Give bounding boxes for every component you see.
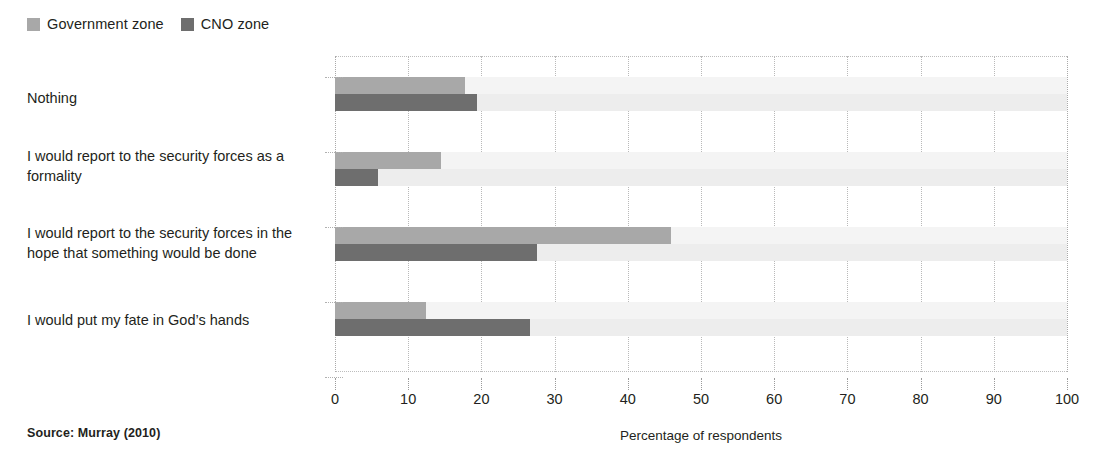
bar-track	[335, 302, 1067, 319]
bar-group	[335, 227, 1067, 261]
category-separator-tick	[325, 77, 343, 78]
source-note: Source: Murray (2010)	[27, 427, 160, 440]
x-tick-0	[335, 378, 336, 390]
x-tick-label-50: 50	[693, 392, 709, 407]
bar-track	[335, 169, 1067, 186]
x-tick-label-70: 70	[839, 392, 855, 407]
x-axis-title: Percentage of respondents	[335, 429, 1067, 443]
chart-legend: Government zone CNO zone	[27, 17, 269, 32]
category-label-0: Nothing	[27, 89, 327, 109]
category-axis-labels: Nothing I would report to the security f…	[27, 56, 327, 372]
chart-plot-area	[335, 56, 1067, 372]
bar-group	[335, 152, 1067, 186]
category-separator-tick	[325, 302, 343, 303]
x-tick-50	[701, 378, 702, 390]
legend-swatch-icon	[181, 18, 194, 31]
x-tick-label-30: 30	[547, 392, 563, 407]
category-separator-tick	[325, 152, 343, 153]
x-tick-label-80: 80	[913, 392, 929, 407]
bar	[335, 94, 477, 111]
x-tick-label-90: 90	[986, 392, 1002, 407]
x-axis: 0102030405060708090100	[335, 378, 1067, 418]
bar-group	[335, 302, 1067, 336]
x-tick-60	[774, 378, 775, 390]
category-label-3: I would put my fate in God’s hands	[27, 311, 327, 331]
bar	[335, 302, 426, 319]
bar-track	[335, 152, 1067, 169]
x-tick-80	[921, 378, 922, 390]
legend-item-government-zone: Government zone	[27, 17, 164, 32]
x-tick-label-60: 60	[766, 392, 782, 407]
bar	[335, 319, 530, 336]
bar	[335, 77, 465, 94]
gridline-100	[1067, 56, 1068, 372]
category-label-2: I would report to the security forces in…	[27, 224, 327, 263]
x-tick-90	[994, 378, 995, 390]
legend-item-cno-zone: CNO zone	[181, 17, 270, 32]
bar	[335, 152, 441, 169]
x-tick-label-20: 20	[473, 392, 489, 407]
category-label-1: I would report to the security forces as…	[27, 147, 327, 186]
legend-label: CNO zone	[201, 17, 270, 32]
bar	[335, 169, 378, 186]
bar-group	[335, 77, 1067, 111]
x-tick-label-40: 40	[620, 392, 636, 407]
x-tick-40	[628, 378, 629, 390]
category-separator-tick	[325, 227, 343, 228]
x-tick-70	[847, 378, 848, 390]
x-tick-30	[555, 378, 556, 390]
x-tick-10	[408, 378, 409, 390]
x-tick-100	[1067, 378, 1068, 390]
legend-label: Government zone	[47, 17, 164, 32]
x-tick-label-100: 100	[1055, 392, 1079, 407]
x-tick-label-10: 10	[400, 392, 416, 407]
bar	[335, 227, 671, 244]
x-tick-label-0: 0	[331, 392, 339, 407]
bar	[335, 244, 537, 261]
x-tick-20	[481, 378, 482, 390]
legend-swatch-icon	[27, 18, 40, 31]
